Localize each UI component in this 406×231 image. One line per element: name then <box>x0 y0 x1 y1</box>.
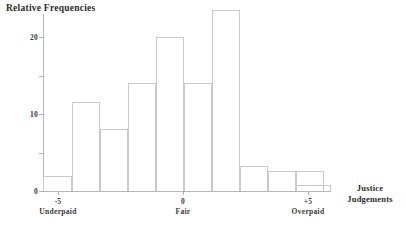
histogram-bar <box>268 171 296 191</box>
histogram-screenshot: Relative Frequencies 20100 -5Underpaid0F… <box>0 0 406 231</box>
histogram-bar <box>296 185 331 191</box>
y-tick-5 <box>39 153 43 154</box>
y-tick-0 <box>39 191 43 192</box>
y-tick-label-20: 20 <box>8 33 38 42</box>
histogram-bar <box>72 102 100 191</box>
y-tick-label-10: 10 <box>8 110 38 119</box>
x-axis-title-line2: Judgements <box>336 194 404 205</box>
x-axis-title: Justice Judgements <box>336 183 404 205</box>
x-tick-0 <box>183 191 184 195</box>
x-tick-label-0: 0 <box>148 197 218 206</box>
histogram-bar <box>43 176 72 191</box>
y-tick-label-0: 0 <box>8 187 38 196</box>
histogram-bar <box>184 83 212 191</box>
x-tick-sublabel-overpaid: Overpaid <box>263 207 353 216</box>
y-tick-15 <box>39 76 43 77</box>
histogram-bar <box>100 129 128 191</box>
x-tick-sublabel-underpaid: Underpaid <box>13 207 103 216</box>
histogram-bar <box>156 37 184 191</box>
x-tick-+5 <box>308 191 309 195</box>
histogram-bar <box>240 166 268 191</box>
histogram-bar <box>128 83 156 191</box>
x-tick--5 <box>58 191 59 195</box>
x-axis-title-line1: Justice <box>336 183 404 194</box>
y-tick-10 <box>39 114 43 115</box>
x-tick-label--5: -5 <box>23 197 93 206</box>
histogram-bar <box>212 10 240 191</box>
x-axis-line <box>43 191 331 192</box>
y-axis-line <box>43 14 44 192</box>
x-tick-sublabel-fair: Fair <box>138 207 228 216</box>
y-tick-20 <box>39 37 43 38</box>
x-tick-label-+5: +5 <box>273 197 343 206</box>
